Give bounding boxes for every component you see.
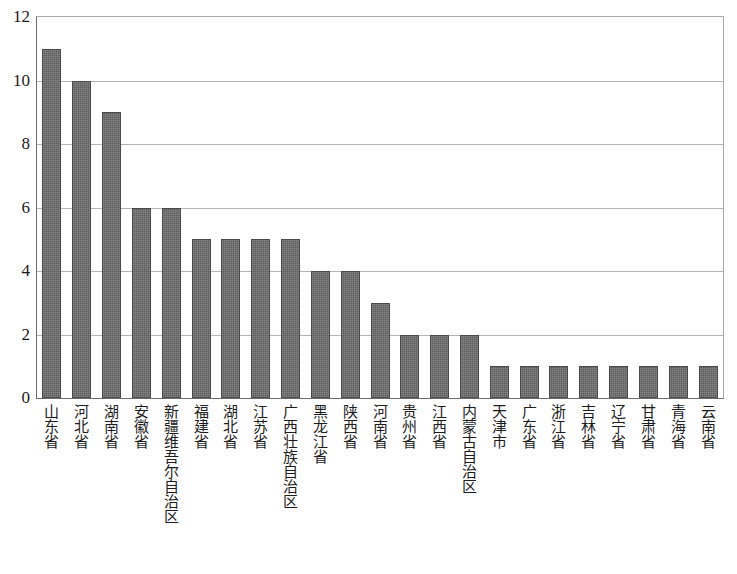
bar[interactable] xyxy=(281,239,300,398)
x-axis-label-slot: 吉林省 xyxy=(573,399,603,574)
x-axis-tick-label: 广西壮族自治区 xyxy=(282,404,298,509)
x-axis-label-slot: 广东省 xyxy=(513,399,543,574)
x-axis-label-slot: 天津市 xyxy=(483,399,513,574)
bar[interactable] xyxy=(639,366,658,398)
bar[interactable] xyxy=(549,366,568,398)
x-axis-tick-label: 广东省 xyxy=(520,404,536,449)
bar[interactable] xyxy=(162,208,181,399)
bar[interactable] xyxy=(669,366,688,398)
bar[interactable] xyxy=(579,366,598,398)
bar-slot xyxy=(246,17,276,398)
y-axis-tick-label: 6 xyxy=(22,199,31,216)
bar-slot xyxy=(455,17,485,398)
x-axis-tick-label: 河南省 xyxy=(371,404,387,449)
x-axis-label-slot: 广西壮族自治区 xyxy=(275,399,305,574)
x-axis-tick-label: 青海省 xyxy=(669,404,685,449)
x-axis-label-slot: 辽宁省 xyxy=(603,399,633,574)
bar-slot xyxy=(37,17,67,398)
bar-slot xyxy=(514,17,544,398)
bar-slot xyxy=(663,17,693,398)
x-axis-label-slot: 内蒙古自治区 xyxy=(454,399,484,574)
x-axis-label-slot: 甘肃省 xyxy=(633,399,663,574)
bar[interactable] xyxy=(102,112,121,398)
bar[interactable] xyxy=(251,239,270,398)
x-axis-label-slot: 福建省 xyxy=(185,399,215,574)
x-axis-tick-label: 云南省 xyxy=(699,404,715,449)
x-axis-label-slot: 湖南省 xyxy=(96,399,126,574)
bar-slot xyxy=(574,17,604,398)
y-axis-tick-label: 10 xyxy=(13,72,30,89)
x-axis-label-slot: 山东省 xyxy=(36,399,66,574)
x-axis-tick-label: 浙江省 xyxy=(550,404,566,449)
x-axis-tick-label: 福建省 xyxy=(192,404,208,449)
bar[interactable] xyxy=(520,366,539,398)
bar-slot xyxy=(544,17,574,398)
x-axis-label-slot: 陕西省 xyxy=(334,399,364,574)
y-axis-tick-label: 4 xyxy=(22,262,31,279)
bar[interactable] xyxy=(341,271,360,398)
bar[interactable] xyxy=(42,49,61,398)
x-axis-tick-label: 黑龙江省 xyxy=(311,404,327,464)
bar-slot xyxy=(276,17,306,398)
x-axis-label-slot: 安徽省 xyxy=(125,399,155,574)
x-axis-label-slot: 青海省 xyxy=(662,399,692,574)
x-axis-label-slot: 新疆维吾尔自治区 xyxy=(155,399,185,574)
x-axis-tick-label: 湖南省 xyxy=(103,404,119,449)
x-axis-label-slot: 湖北省 xyxy=(215,399,245,574)
x-axis-label-slot: 河北省 xyxy=(66,399,96,574)
bar[interactable] xyxy=(72,81,91,399)
x-axis-tick-label: 内蒙古自治区 xyxy=(461,404,477,494)
bar-slot xyxy=(216,17,246,398)
plot-area xyxy=(36,16,724,399)
bar-chart: 024681012 山东省河北省湖南省安徽省新疆维吾尔自治区福建省湖北省江苏省广… xyxy=(0,0,737,574)
bar-slot xyxy=(484,17,514,398)
bar[interactable] xyxy=(699,366,718,398)
x-axis-label-slot: 江西省 xyxy=(424,399,454,574)
bar-slot xyxy=(365,17,395,398)
x-axis-tick-label: 辽宁省 xyxy=(610,404,626,449)
bar-slot xyxy=(604,17,634,398)
x-axis-label-slot: 浙江省 xyxy=(543,399,573,574)
bar-slot xyxy=(395,17,425,398)
x-axis-tick-label: 湖北省 xyxy=(222,404,238,449)
bar-slot xyxy=(67,17,97,398)
bar-slot xyxy=(305,17,335,398)
x-axis-tick-label: 山东省 xyxy=(43,404,59,449)
bar-slot xyxy=(156,17,186,398)
bar-slot xyxy=(425,17,455,398)
x-axis-tick-label: 江苏省 xyxy=(252,404,268,449)
bar-slot xyxy=(126,17,156,398)
bar[interactable] xyxy=(192,239,211,398)
y-axis: 024681012 xyxy=(0,0,36,400)
x-axis-tick-label: 吉林省 xyxy=(580,404,596,449)
x-axis-tick-label: 陕西省 xyxy=(341,404,357,449)
bar[interactable] xyxy=(430,335,449,399)
bar[interactable] xyxy=(371,303,390,398)
bar[interactable] xyxy=(311,271,330,398)
x-axis-tick-label: 河北省 xyxy=(73,404,89,449)
x-axis-label-slot: 江苏省 xyxy=(245,399,275,574)
x-axis-label-slot: 河南省 xyxy=(364,399,394,574)
x-axis-label-slot: 贵州省 xyxy=(394,399,424,574)
x-axis-tick-label: 贵州省 xyxy=(401,404,417,449)
y-axis-tick-label: 2 xyxy=(22,326,31,343)
x-axis-tick-label: 甘肃省 xyxy=(639,404,655,449)
y-axis-tick-label: 0 xyxy=(22,389,31,406)
bar-slot xyxy=(693,17,723,398)
x-axis-tick-label: 江西省 xyxy=(431,404,447,449)
bar-slot xyxy=(335,17,365,398)
bar[interactable] xyxy=(400,335,419,399)
bar-slot xyxy=(186,17,216,398)
bar[interactable] xyxy=(460,335,479,399)
x-axis-tick-label: 新疆维吾尔自治区 xyxy=(162,404,178,524)
x-axis-tick-label: 安徽省 xyxy=(132,404,148,449)
bar[interactable] xyxy=(490,366,509,398)
x-axis-tick-label: 天津市 xyxy=(490,404,506,449)
y-axis-tick-label: 12 xyxy=(13,8,30,25)
bar[interactable] xyxy=(132,208,151,399)
bar[interactable] xyxy=(609,366,628,398)
bar-slot xyxy=(634,17,664,398)
bar[interactable] xyxy=(221,239,240,398)
x-axis-label-slot: 黑龙江省 xyxy=(304,399,334,574)
bar-slot xyxy=(97,17,127,398)
